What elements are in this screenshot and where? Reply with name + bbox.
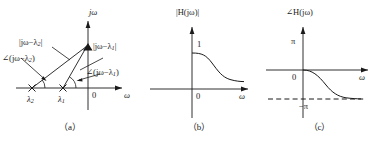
panel-c-omega-axis-label: ω xyxy=(359,73,365,82)
panel-b-origin-label: 0 xyxy=(196,92,200,101)
evaluation-point-marker xyxy=(83,43,93,51)
annotation-mag-vector-2: |jω−λ2| xyxy=(19,38,42,48)
angle-arc-lambda2 xyxy=(42,80,45,88)
panel-b-unity-tick-label: 1 xyxy=(197,40,201,49)
panel-c-caption: （c） xyxy=(258,120,381,133)
panel-a-pole-diagram: jω ω 0 λ2 λ1 |jω−λ2| |jω−λ1| ∠(jω−λ2) ∠(… xyxy=(0,0,140,141)
vector-from-lambda1 xyxy=(63,46,87,88)
panel-b-omega-axis-label: ω xyxy=(239,92,245,101)
annotation-mag-vector-1: |jω−λ1| xyxy=(93,42,116,52)
leader-angle-lambda1-arrow xyxy=(77,78,83,81)
panel-b-magnitude-curve xyxy=(192,53,244,82)
angle-arc-lambda1 xyxy=(69,77,76,88)
panel-c-origin-label: 0 xyxy=(292,73,296,82)
figure-root: jω ω 0 λ2 λ1 |jω−λ2| |jω−λ1| ∠(jω−λ2) ∠(… xyxy=(0,0,381,141)
pole-lambda1-label: λ1 xyxy=(58,95,65,105)
panel-a-omega-arrow xyxy=(115,86,122,91)
leader-mag-lambda2 xyxy=(52,47,70,60)
panel-a-omega-axis-label: ω xyxy=(124,91,130,100)
panel-a-jomega-arrow xyxy=(86,21,91,28)
panel-a-angle-arcs xyxy=(42,77,76,88)
panel-c-phase-curve xyxy=(303,70,361,99)
panel-c-phase-arrow xyxy=(301,27,306,34)
panel-c-neg-pi-tick-label: −π xyxy=(299,102,308,111)
panel-a-caption: （a） xyxy=(0,120,140,133)
annotation-angle-vector-2: ∠(jω−λ2) xyxy=(2,54,35,64)
panel-a-origin-label: 0 xyxy=(92,91,96,100)
panel-c-phase-response: ∠H(jω) ω 0 π −π （c） xyxy=(258,0,381,141)
panel-b-magnitude-arrow xyxy=(190,27,195,34)
panel-c-pi-tick-label: π xyxy=(291,37,295,46)
annotation-angle-vector-1: ∠(jω−λ1) xyxy=(86,68,119,78)
panel-c-phase-axis-label: ∠H(jω) xyxy=(286,8,313,17)
panel-a-jomega-axis-label: jω xyxy=(89,8,97,17)
panel-b-magnitude-response: |H(jω)| ω 0 1 （b） xyxy=(140,0,258,141)
pole-lambda2-label: λ2 xyxy=(27,95,34,105)
panel-b-caption: （b） xyxy=(140,120,258,133)
panel-b-magnitude-axis-label: |H(jω)| xyxy=(176,8,199,17)
